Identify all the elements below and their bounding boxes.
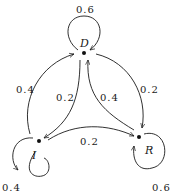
node-D-dot — [82, 51, 86, 55]
node-R-label: R — [144, 144, 153, 157]
node-R-dot — [137, 135, 141, 139]
node-I-dot — [37, 139, 41, 143]
label-I-I: 0.4 — [2, 182, 21, 193]
label-R-R: 0.6 — [152, 182, 171, 193]
node-D-label: D — [79, 37, 89, 50]
label-D-R: 0.2 — [140, 84, 159, 95]
edge-D-R — [96, 54, 143, 128]
label-R-D: 0.4 — [100, 92, 119, 103]
label-D-D: 0.6 — [76, 4, 95, 15]
label-D-I: 0.2 — [56, 92, 75, 103]
label-I-R: 0.2 — [80, 136, 99, 147]
node-I-label: I — [31, 149, 37, 162]
state-diagram: D I R 0.6 0.4 0.6 0.4 0.2 0.4 0.2 0.2 — [0, 0, 171, 194]
edge-I-I — [13, 138, 49, 176]
label-I-D: 0.4 — [16, 84, 35, 95]
